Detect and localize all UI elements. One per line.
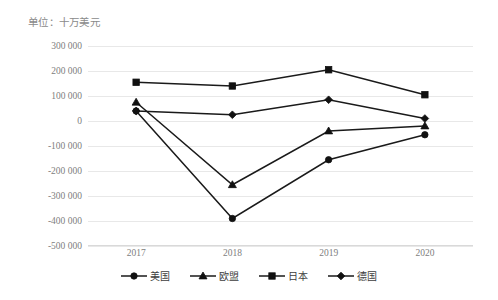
legend-item[interactable]: 日本 [259,268,308,283]
data-point-square [133,79,139,85]
x-axis-tick-labels: 2017201820192020 [88,248,473,266]
x-axis-tick-label: 2020 [415,248,434,258]
legend-item-label: 欧盟 [219,268,239,283]
x-axis-tick-label: 2019 [319,248,338,258]
y-axis-tick-label: 200 000 [20,66,82,76]
series-line [136,100,425,119]
chart-container: 单位：十万美元 300 000200 000100 0000-100 000-2… [0,0,498,300]
gridline [88,246,473,247]
chart-unit-caption: 单位：十万美元 [28,14,100,29]
y-axis-tick-label: -500 000 [20,241,82,251]
data-point-square [422,92,428,98]
data-point-diamond [325,96,333,104]
data-point-circle [131,272,137,278]
data-point-circle [229,215,235,221]
data-point-square [229,83,235,89]
data-point-diamond [337,272,345,280]
x-axis-tick-label: 2018 [223,248,242,258]
y-axis-tick-label: -100 000 [20,141,82,151]
legend-item[interactable]: 美国 [121,268,170,283]
data-point-circle [325,157,331,163]
diamond-icon [328,270,354,282]
data-point-diamond [421,115,429,123]
y-axis-tick-label: -300 000 [20,191,82,201]
plot-area [88,46,473,246]
y-axis-tick-label: -200 000 [20,166,82,176]
data-point-circle [422,132,428,138]
series-layer [88,46,473,246]
triangle-icon [190,270,216,282]
legend-item-label: 德国 [357,268,377,283]
legend-item[interactable]: 欧盟 [190,268,239,283]
y-axis-tick-label: 0 [20,116,82,126]
y-axis-tick-labels: 300 000200 000100 0000-100 000-200 000-3… [18,46,82,246]
y-axis-tick-label: 100 000 [20,91,82,101]
series-line [136,102,425,185]
series-line [136,111,425,219]
y-axis-tick-label: -400 000 [20,216,82,226]
series-line [136,70,425,95]
legend-item[interactable]: 德国 [328,268,377,283]
legend-item-label: 日本 [288,268,308,283]
circle-icon [121,270,147,282]
data-point-triangle [132,98,140,105]
square-icon [259,270,285,282]
chart-legend: 美国欧盟日本德国 [0,268,498,283]
y-axis-tick-label: 300 000 [20,41,82,51]
data-point-square [269,272,275,278]
legend-item-label: 美国 [150,268,170,283]
data-point-diamond [229,111,237,119]
data-point-square [325,67,331,73]
x-axis-tick-label: 2017 [127,248,146,258]
